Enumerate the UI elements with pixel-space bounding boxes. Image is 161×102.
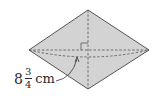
fraction-numerator: 3: [24, 67, 32, 77]
fraction-denominator: 4: [25, 80, 31, 90]
label-unit: cm: [35, 72, 55, 85]
diagonal-length-label: 8 3 4 cm: [14, 67, 55, 90]
label-fraction: 3 4: [24, 67, 32, 90]
label-whole-number: 8: [14, 72, 23, 86]
